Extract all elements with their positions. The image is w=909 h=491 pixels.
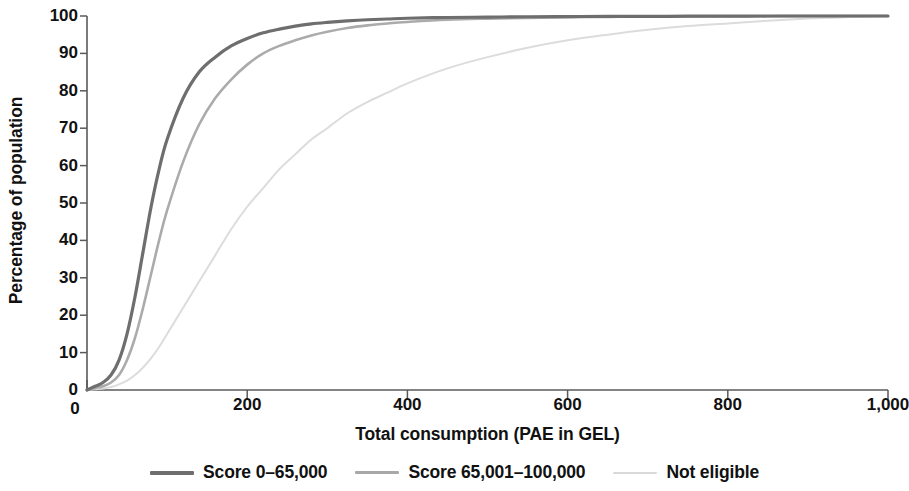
x-axis-tick-label: 600: [553, 396, 581, 413]
series-line-2: [87, 16, 888, 390]
legend-item-label: Score 0–65,000: [203, 462, 327, 483]
series-line-0: [87, 16, 888, 390]
x-axis-tick-label: 1,000: [867, 396, 909, 413]
legend-swatch-line-icon: [355, 471, 399, 474]
legend-item[interactable]: Score 0–65,000: [150, 462, 327, 483]
x-axis-title: Total consumption (PAE in GEL): [87, 424, 888, 445]
x-axis-tick-label: 800: [714, 396, 742, 413]
chart-figure: Percentage of population 010203040506070…: [0, 0, 909, 491]
x-axis-tick-label: 400: [393, 396, 421, 413]
legend-swatch-line-icon: [150, 471, 194, 475]
legend-item[interactable]: Not eligible: [613, 462, 759, 483]
series-line-1: [87, 16, 888, 390]
chart-legend: Score 0–65,000Score 65,001–100,000Not el…: [0, 462, 909, 483]
x-axis-tick-labels: 02004006008001,000: [0, 396, 909, 422]
legend-item-label: Score 65,001–100,000: [408, 462, 585, 483]
legend-item[interactable]: Score 65,001–100,000: [355, 462, 585, 483]
legend-item-label: Not eligible: [666, 462, 759, 483]
legend-swatch-line-icon: [613, 472, 657, 474]
x-axis-tick-label: 200: [233, 396, 261, 413]
x-axis-tick-label: 0: [70, 400, 79, 417]
